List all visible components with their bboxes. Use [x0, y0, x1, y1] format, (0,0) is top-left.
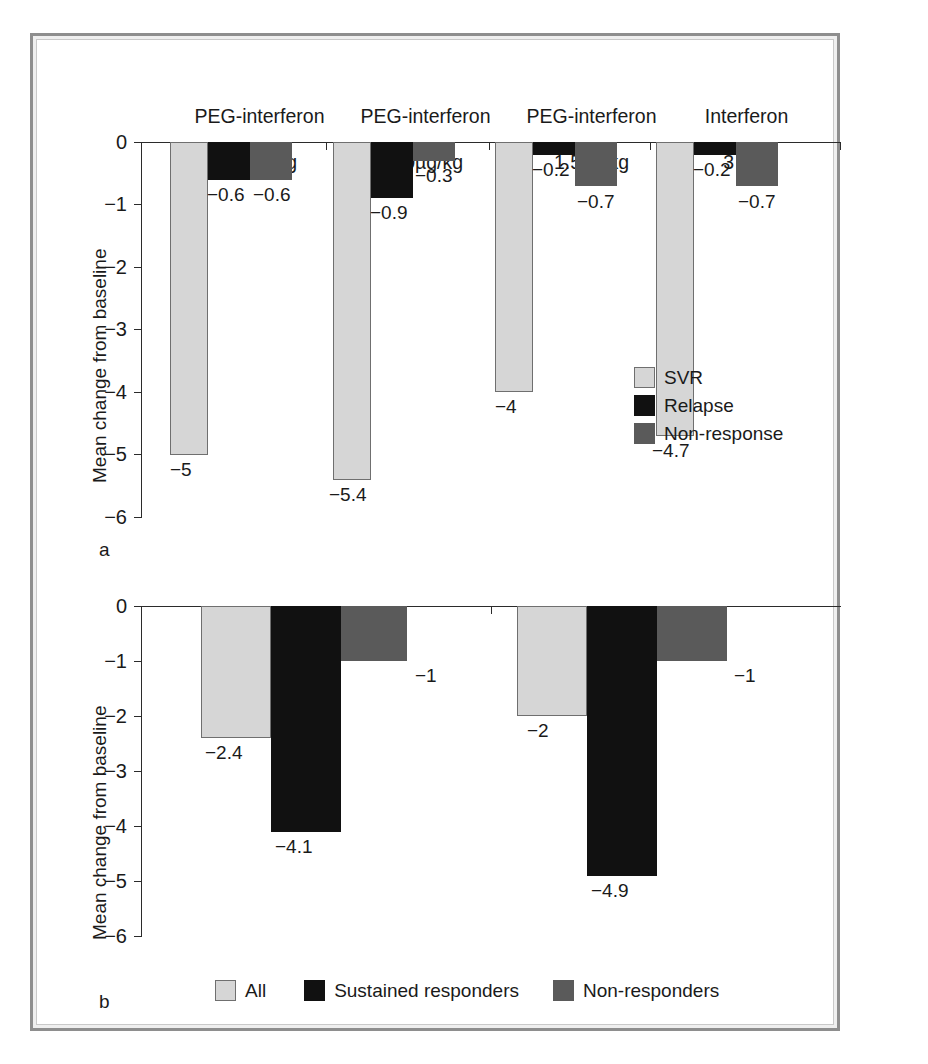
bar-b-g2-sustained[interactable] [587, 606, 657, 876]
bar-label-a-g1-nonresponse: −0.6 [253, 185, 291, 204]
y-tick-b-1 [134, 661, 141, 662]
x-tick-a-1 [326, 142, 327, 150]
y-tick-b-4 [134, 826, 141, 827]
bar-label-a-g3-relapse: −0.2 [532, 160, 570, 179]
bar-label-b-g2-nonresponders: −1 [734, 666, 756, 685]
y-tick-label-a-4: −4 [82, 382, 127, 402]
bar-b-g2-all[interactable] [517, 606, 587, 716]
y-tick-a-1 [134, 204, 141, 205]
y-tick-b-2 [134, 716, 141, 717]
y-tick-b-5 [134, 881, 141, 882]
legend-label-relapse: Relapse [664, 396, 734, 415]
y-tick-label-a-3: −3 [82, 319, 127, 339]
bar-label-a-g3-svr: −4 [495, 397, 517, 416]
y-tick-a-5 [134, 454, 141, 455]
legend-item-relapse[interactable]: Relapse [634, 393, 783, 417]
legend-swatch-non-response-icon [634, 423, 655, 444]
bar-a-g1-svr[interactable] [170, 142, 208, 455]
x-tick-a-4 [840, 142, 841, 150]
bar-a-g4-nonresponse[interactable] [736, 142, 778, 186]
y-tick-label-b-5: −5 [82, 871, 127, 891]
panel-letter-b: b [99, 992, 110, 1011]
bar-b-g1-all[interactable] [201, 606, 271, 738]
y-tick-label-a-0: 0 [82, 132, 127, 152]
bar-label-b-g2-all: −2 [527, 721, 549, 740]
y-tick-a-3 [134, 329, 141, 330]
y-tick-b-6 [134, 936, 141, 937]
bar-label-a-g2-relapse: −0.9 [370, 203, 408, 222]
legend-panel-b: All Sustained responders Non-responders [215, 980, 719, 1001]
bar-label-a-g1-svr: −5 [170, 460, 192, 479]
x-tick-a-3 [650, 142, 651, 150]
legend-label-non-response: Non-response [664, 424, 783, 443]
y-tick-label-b-6: −6 [82, 926, 127, 946]
x-tick-b-1 [491, 606, 492, 614]
y-tick-a-2 [134, 267, 141, 268]
group-title-line1: Interferon [705, 105, 788, 127]
legend-swatch-all-icon [215, 980, 236, 1001]
legend-label-non-responders: Non-responders [583, 981, 719, 1000]
y-tick-b-0 [134, 606, 141, 607]
bar-label-a-g2-svr: −5.4 [329, 485, 367, 504]
y-tick-label-a-5: −5 [82, 444, 127, 464]
y-tick-label-b-2: −2 [82, 706, 127, 726]
y-tick-b-3 [134, 771, 141, 772]
legend-swatch-non-responders-icon [553, 980, 574, 1001]
group-title-line1: PEG-interferon [526, 105, 656, 127]
y-tick-label-a-6: −6 [82, 507, 127, 527]
y-tick-a-4 [134, 392, 141, 393]
bar-label-a-g1-relapse: −0.6 [207, 185, 245, 204]
figure-frame: PEG-interferon 0.5µg/kg PEG-interferon 1… [30, 33, 840, 1031]
bar-a-g3-nonresponse[interactable] [575, 142, 617, 186]
y-tick-label-a-2: −2 [82, 257, 127, 277]
bar-a-g3-svr[interactable] [495, 142, 533, 392]
legend-item-svr[interactable]: SVR [634, 365, 783, 389]
y-tick-label-b-3: −3 [82, 761, 127, 781]
bar-a-g3-relapse[interactable] [533, 142, 575, 155]
group-title-line1: PEG-interferon [360, 105, 490, 127]
bar-b-g2-nonresponders[interactable] [657, 606, 727, 661]
y-tick-a-0 [134, 142, 141, 143]
legend-label-all: All [245, 981, 266, 1000]
y-tick-label-b-4: −4 [82, 816, 127, 836]
bar-b-g1-sustained[interactable] [271, 606, 341, 832]
y-tick-label-a-1: −1 [82, 194, 127, 214]
legend-item-sustained-responders[interactable]: Sustained responders [304, 980, 519, 1001]
bar-a-g1-relapse[interactable] [208, 142, 250, 180]
y-tick-label-b-1: −1 [82, 651, 127, 671]
bar-label-b-g1-sustained: −4.1 [275, 837, 313, 856]
legend-item-all[interactable]: All [215, 980, 266, 1001]
legend-label-sustained-responders: Sustained responders [334, 981, 519, 1000]
bar-a-g2-relapse[interactable] [371, 142, 413, 198]
bar-a-g1-nonresponse[interactable] [250, 142, 292, 180]
legend-item-non-responders[interactable]: Non-responders [553, 980, 719, 1001]
bar-label-b-g1-nonresponders: −1 [415, 666, 437, 685]
y-axis-line-a [141, 142, 142, 518]
y-tick-label-b-0: 0 [82, 596, 127, 616]
bar-label-a-g3-nonresponse: −0.7 [577, 192, 615, 211]
y-axis-line-b [141, 606, 142, 937]
legend-swatch-relapse-icon [634, 395, 655, 416]
bar-label-a-g4-nonresponse: −0.7 [738, 192, 776, 211]
bar-label-a-g2-nonresponse: −0.3 [415, 166, 453, 185]
legend-label-svr: SVR [664, 368, 703, 387]
group-title-line1: PEG-interferon [194, 105, 324, 127]
bar-label-b-g2-sustained: −4.9 [591, 881, 629, 900]
legend-item-non-response[interactable]: Non-response [634, 421, 783, 445]
bar-label-b-g1-all: −2.4 [205, 743, 243, 762]
figure-canvas: PEG-interferon 0.5µg/kg PEG-interferon 1… [36, 39, 834, 1025]
bar-a-g2-svr[interactable] [333, 142, 371, 480]
legend-swatch-sustained-responders-icon [304, 980, 325, 1001]
bar-a-g4-relapse[interactable] [694, 142, 736, 155]
legend-swatch-svr-icon [634, 367, 655, 388]
bar-label-a-g4-relapse: −0.2 [693, 160, 731, 179]
legend-panel-a: SVR Relapse Non-response [634, 365, 783, 449]
bar-a-g2-nonresponse[interactable] [413, 142, 455, 161]
y-tick-a-6 [134, 517, 141, 518]
x-tick-a-2 [489, 142, 490, 150]
panel-letter-a: a [99, 540, 110, 559]
bar-b-g1-nonresponders[interactable] [341, 606, 407, 661]
